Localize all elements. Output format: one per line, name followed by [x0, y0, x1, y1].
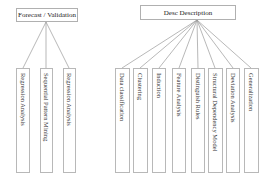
leaf-regression-analysis-2: Regression Analysis [63, 68, 76, 173]
leaf-structural-dependency-model: Structural Dependency Model [208, 68, 223, 173]
leaf-regression-analysis-1: Regression Analysis [16, 68, 30, 173]
leaf-deviation-analysis: Deviation Analysis [226, 68, 240, 173]
leaf-induction: Induction [152, 68, 166, 173]
desc-description-node: Desc Description [140, 5, 236, 20]
leaf-feature-analysis: Feature Analysis [172, 68, 186, 173]
leaf-distinguish-rules: Distinguish Rules [191, 68, 205, 173]
leaf-clustering: Clustering [133, 68, 148, 173]
leaf-data-classification: Data classification [115, 68, 130, 173]
taxonomy-diagram: Forecast / Validation Desc Description R… [0, 0, 270, 182]
forecast-validation-node: Forecast / Validation [16, 8, 78, 22]
leaf-sequential-pattern-mining: Sequential Pattern Mining [40, 68, 53, 173]
leaf-generalization: Generalization [244, 68, 259, 173]
